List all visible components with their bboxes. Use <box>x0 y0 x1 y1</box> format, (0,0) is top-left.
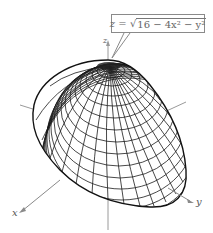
equation-radicand: 16 − 4x² − y² <box>136 18 206 30</box>
equation-equals: = <box>118 18 126 29</box>
equation-callout: z = √ 16 − 4x² − y² <box>111 14 205 33</box>
ellipsoid-surface <box>33 60 213 233</box>
callout-pointer <box>112 33 130 58</box>
x-arrow-icon <box>19 207 26 213</box>
y-axis-label: y <box>196 196 202 207</box>
x-axis-front <box>22 180 60 211</box>
y-arrow-icon <box>187 199 194 203</box>
x-axis-label: x <box>12 207 18 218</box>
z-axis-label: z <box>103 36 107 45</box>
ellipsoid-figure: z = √ 16 − 4x² − y² z x y <box>0 0 213 233</box>
wireframe-plot <box>0 0 213 233</box>
